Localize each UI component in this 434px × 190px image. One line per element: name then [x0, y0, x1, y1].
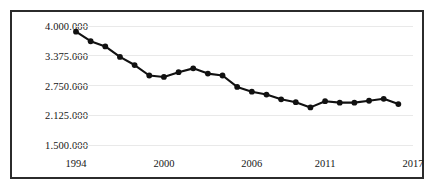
data-point-marker	[161, 74, 167, 80]
line-chart-plot	[76, 26, 413, 145]
x-axis-tick-label: 2017	[403, 158, 424, 169]
data-point-marker	[205, 71, 211, 77]
data-point-marker	[293, 99, 299, 105]
data-point-marker	[395, 101, 401, 107]
data-point-marker	[337, 100, 343, 106]
data-point-marker	[132, 62, 138, 68]
data-point-marker	[176, 69, 182, 75]
data-point-marker	[73, 29, 79, 35]
data-point-marker	[220, 73, 226, 79]
data-point-marker	[366, 98, 372, 104]
x-axis-tick-label: 2011	[315, 158, 336, 169]
data-point-marker	[117, 54, 123, 60]
x-axis-tick-label: 1994	[66, 158, 87, 169]
chart-frame: 1.500.0002.125.0002.750.0003.375.0004.00…	[10, 10, 424, 179]
series-markers	[73, 29, 401, 110]
data-point-marker	[249, 89, 255, 95]
data-point-marker	[264, 92, 270, 98]
data-point-marker	[146, 73, 152, 79]
data-point-marker	[278, 96, 284, 102]
data-point-marker	[102, 44, 108, 50]
chart-inner: 1.500.0002.125.0002.750.0003.375.0004.00…	[12, 12, 422, 177]
x-axis-tick-label: 2006	[241, 158, 262, 169]
data-point-marker	[322, 98, 328, 104]
data-point-marker	[88, 38, 94, 44]
gridlines	[76, 26, 413, 145]
data-point-marker	[308, 105, 314, 111]
series-line	[76, 32, 398, 108]
data-point-marker	[351, 100, 357, 106]
x-axis-tick-label: 2000	[153, 158, 174, 169]
data-point-marker	[381, 96, 387, 102]
data-point-marker	[190, 65, 196, 71]
data-point-marker	[234, 84, 240, 90]
